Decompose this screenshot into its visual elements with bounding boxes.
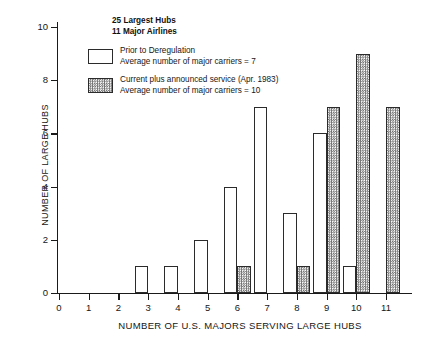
y-tick-label: 0: [43, 287, 48, 298]
y-tick-mark: [51, 133, 57, 134]
bar: [224, 187, 238, 293]
x-tick-label: 3: [146, 302, 151, 313]
chart-legend: Prior to Deregulation Average number of …: [88, 45, 278, 103]
x-tick-mark: [327, 294, 328, 300]
x-tick-label: 8: [294, 302, 299, 313]
y-tick: 8: [51, 80, 57, 81]
x-tick-label: 7: [264, 302, 269, 313]
bar: [343, 266, 357, 293]
x-tick-mark: [267, 294, 268, 300]
y-tick-mark: [51, 293, 57, 294]
x-tick-mark: [356, 294, 357, 300]
x-tick-label: 5: [205, 302, 210, 313]
bar: [164, 266, 178, 293]
x-axis-line: [57, 293, 412, 294]
y-tick-label: 8: [43, 74, 48, 85]
x-tick-mark: [208, 294, 209, 300]
bar: [313, 133, 327, 293]
x-tick-mark: [178, 294, 179, 300]
bar: [194, 240, 208, 293]
legend-line-1: Prior to Deregulation: [120, 45, 256, 56]
bar: [254, 107, 268, 293]
legend-line-2: Average number of major carriers = 7: [120, 56, 256, 67]
bar: [237, 266, 251, 293]
x-tick-mark: [59, 294, 60, 300]
x-tick-label: 6: [235, 302, 240, 313]
x-tick-mark: [118, 294, 119, 300]
x-tick-label: 9: [324, 302, 329, 313]
x-tick-label: 11: [381, 302, 391, 313]
x-tick-mark: [237, 294, 238, 300]
bar: [356, 54, 370, 293]
x-tick-label: 10: [351, 302, 362, 313]
y-tick-mark: [51, 240, 57, 241]
x-tick-label: 1: [86, 302, 91, 313]
x-tick-label: 4: [175, 302, 180, 313]
y-tick-mark: [51, 80, 57, 81]
legend-item: Prior to Deregulation Average number of …: [88, 45, 278, 67]
y-tick: 6: [51, 133, 57, 134]
x-axis-title: NUMBER OF U.S. MAJORS SERVING LARGE HUBS: [56, 320, 424, 331]
bar: [327, 107, 341, 293]
chart-annotation: 25 Largest Hubs 11 Major Airlines: [112, 15, 177, 38]
y-axis-line: [57, 22, 58, 294]
bar-chart: NUMBER OF LARGE HUBS 0246810 01234567891…: [0, 0, 428, 350]
y-tick-mark: [51, 187, 57, 188]
legend-item-label: Prior to Deregulation Average number of …: [120, 45, 256, 67]
bar: [386, 107, 400, 293]
x-tick-mark: [297, 294, 298, 300]
legend-item-label: Current plus announced service (Apr. 198…: [120, 74, 278, 96]
legend-line-2: Average number of major carriers = 10: [120, 85, 278, 96]
y-tick-label: 6: [43, 127, 48, 138]
y-tick-label: 4: [43, 181, 48, 192]
x-tick-label: 0: [56, 302, 61, 313]
y-tick: 0: [51, 293, 57, 294]
annotation-line-2: 11 Major Airlines: [112, 26, 177, 37]
x-tick-label: 2: [116, 302, 121, 313]
legend-line-1: Current plus announced service (Apr. 198…: [120, 74, 278, 85]
x-tick-mark: [386, 294, 387, 300]
y-tick-label: 2: [43, 234, 48, 245]
x-tick-mark: [89, 294, 90, 300]
y-tick: 10: [51, 27, 57, 28]
annotation-line-1: 25 Largest Hubs: [112, 15, 177, 26]
open-box-swatch: [88, 49, 113, 64]
x-tick-mark: [148, 294, 149, 300]
bar: [297, 266, 311, 293]
legend-item: Current plus announced service (Apr. 198…: [88, 74, 278, 96]
hatched-box-swatch: [88, 78, 113, 93]
y-tick-label: 10: [37, 21, 48, 32]
bar: [135, 266, 149, 293]
y-tick: 4: [51, 187, 57, 188]
y-tick: 2: [51, 240, 57, 241]
bar: [283, 213, 297, 293]
y-tick-mark: [51, 27, 57, 28]
